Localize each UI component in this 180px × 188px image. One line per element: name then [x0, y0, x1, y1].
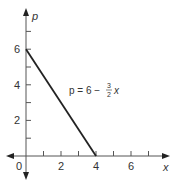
eq-var: x	[113, 85, 120, 96]
eq-prefix: p = 6 −	[69, 85, 100, 96]
eq-denominator: 2	[107, 91, 111, 98]
series-line	[26, 49, 96, 156]
origin-label: 0	[16, 160, 22, 172]
equation-annotation: p = 6 − 3 2 x	[69, 82, 120, 98]
x-axis	[10, 151, 166, 156]
y-axis-label: p	[31, 10, 38, 22]
y-axis	[26, 12, 31, 176]
x-tick-6: 6	[128, 160, 134, 172]
x-tick-2: 2	[58, 160, 64, 172]
y-tick-2: 2	[14, 114, 20, 126]
y-tick-4: 4	[14, 79, 20, 91]
x-tick-4: 4	[93, 160, 99, 172]
eq-numerator: 3	[107, 82, 111, 89]
x-axis-label: x	[162, 161, 169, 173]
y-tick-6: 6	[14, 43, 20, 55]
chart-canvas: 0 2 4 6 x 2 4 6 p p = 6 − 3 2 x	[0, 0, 180, 188]
